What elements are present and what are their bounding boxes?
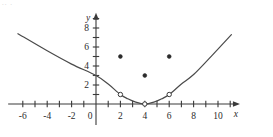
x-tick-label: -4 [43, 111, 51, 121]
solid-point-marker [167, 55, 171, 59]
solid-dot-markers [119, 55, 172, 78]
x-axis-tick-labels: -6-4-20246810 [19, 111, 223, 121]
y-axis-tick-labels: 2468 [84, 23, 89, 90]
x-tick-label: 4 [142, 111, 147, 121]
x-tick-label: 8 [191, 111, 196, 121]
open-point-marker [143, 102, 147, 106]
solid-point-marker [119, 55, 123, 59]
y-axis: 2468 y [84, 13, 99, 125]
solid-point-marker [143, 74, 147, 78]
x-tick-label: 2 [118, 111, 123, 121]
x-tick-label: -2 [68, 111, 76, 121]
y-tick-label: 8 [84, 23, 89, 33]
x-tick-label: 0 [88, 111, 93, 121]
x-axis-arrowhead [233, 101, 240, 107]
x-axis-label: x [233, 109, 239, 119]
open-point-marker [118, 92, 122, 96]
open-point-marker [167, 92, 171, 96]
x-axis: -6-4-20246810 x [8, 101, 240, 121]
plot-curves [18, 34, 232, 104]
y-tick-label: 2 [84, 80, 89, 90]
graph-figure: .. . -6-4-20246810 x 2468 y [0, 0, 273, 137]
x-tick-label: 10 [213, 111, 223, 121]
x-tick-label: 6 [167, 111, 172, 121]
y-tick-label: 6 [84, 42, 89, 52]
x-tick-label: -6 [19, 111, 27, 121]
function-curve [18, 34, 232, 104]
cartesian-plot: -6-4-20246810 x 2468 y [0, 0, 273, 137]
y-axis-label: y [85, 13, 91, 23]
